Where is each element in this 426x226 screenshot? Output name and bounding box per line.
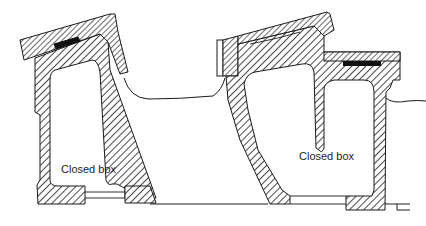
right-flat-cover-slab: [324, 52, 400, 61]
right-outer-membrane: [386, 98, 426, 102]
right-box: [217, 12, 400, 210]
right-box-label: Closed box: [299, 150, 354, 162]
cross-section-diagram: [0, 0, 426, 226]
right-end-plate: [217, 40, 223, 76]
right-box-left-membrane: [213, 78, 225, 96]
left-box-bottom-gap: [85, 192, 125, 198]
left-box: [20, 14, 156, 204]
right-box-left-block: [223, 36, 238, 76]
left-box-frame: [35, 34, 156, 204]
right-box-bottom-gap: [290, 196, 346, 204]
left-box-label: Closed box: [61, 163, 116, 175]
left-box-right-foot: [125, 186, 156, 203]
left-membrane: [124, 78, 213, 99]
right-gasket-icon: [343, 61, 381, 66]
